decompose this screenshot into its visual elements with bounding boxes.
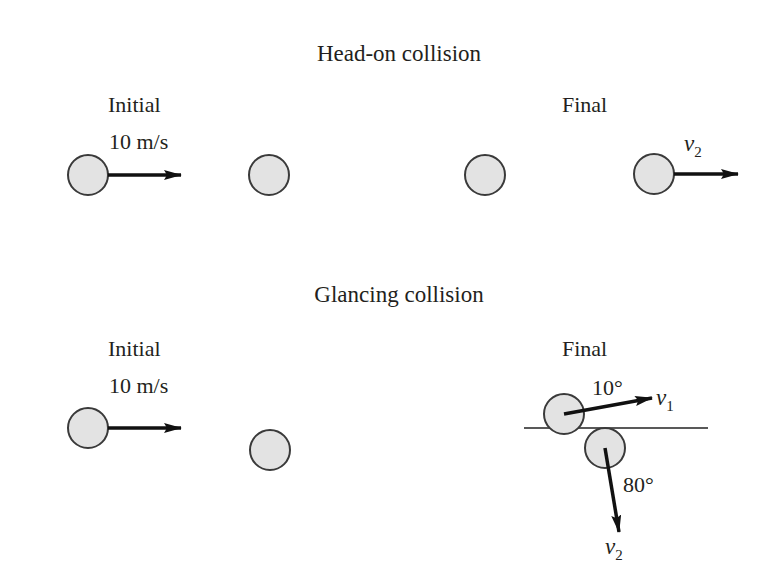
head-on-title: Head-on collision [317,41,482,66]
ball-2-initial [249,155,289,195]
ball-1-initial [68,408,108,448]
ball-2-final [634,154,674,194]
glancing-initial-speed: 10 m/s [109,373,168,398]
angle-10-label: 10° [592,375,623,400]
v2-label: v2 [605,534,623,563]
head-on-initial-speed: 10 m/s [109,129,168,154]
glancing-initial-label: Initial [108,336,161,361]
ball-1-initial [68,155,108,195]
angle-80-label: 80° [623,472,654,497]
ball-1-final [465,155,505,195]
ball-2-initial [250,430,290,470]
head-on-initial-label: Initial [108,92,161,117]
head-on-final-label: Final [562,92,607,117]
glancing-final-label: Final [562,336,607,361]
glancing-title: Glancing collision [314,282,484,307]
head-on-panel: Head-on collision Initial 10 m/s Final v… [68,41,738,195]
v1-label: v1 [656,385,674,414]
collision-diagram: Head-on collision Initial 10 m/s Final v… [0,0,773,584]
head-on-v2-label: v2 [684,131,702,160]
glancing-panel: Glancing collision Initial 10 m/s Final … [68,282,708,563]
